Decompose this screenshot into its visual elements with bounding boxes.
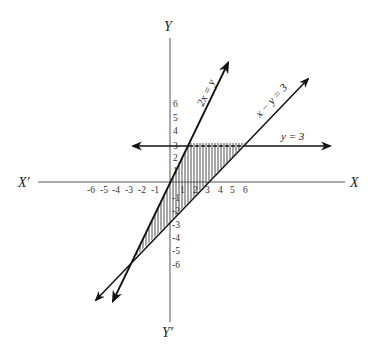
y-tick-label: 4 xyxy=(173,126,178,136)
x-tick-label: -2 xyxy=(138,185,146,195)
y-tick-label: 2 xyxy=(173,153,178,163)
linear-inequalities-graph: Y Y′ X X′ 1 2 3 4 5 6 -1 -2 -3 -4 -5 -6 … xyxy=(0,0,379,349)
y-neg-axis-label: Y′ xyxy=(162,325,174,340)
y-tick-labels-positive: 1 2 3 4 5 6 xyxy=(173,99,178,176)
x-tick-label: -1 xyxy=(151,185,159,195)
y-tick-label: -6 xyxy=(172,260,180,270)
y-tick-label: -4 xyxy=(172,233,180,243)
y-tick-label: 6 xyxy=(173,99,178,109)
x-tick-label: -5 xyxy=(100,185,108,195)
x-tick-label: -4 xyxy=(112,185,120,195)
x-tick-label: 4 xyxy=(218,185,223,195)
x-tick-label: 1 xyxy=(180,185,185,195)
shaded-region xyxy=(134,130,245,270)
x-tick-label: -3 xyxy=(125,185,133,195)
x-tick-label: 5 xyxy=(230,185,235,195)
y-tick-label: -3 xyxy=(172,220,180,230)
y-tick-label: 5 xyxy=(173,113,178,123)
y-tick-label: -1 xyxy=(172,193,180,203)
label-x-minus-y-equals-3: x − y = 3 xyxy=(252,81,290,120)
x-tick-labels-negative: -1 -2 -3 -4 -5 -6 xyxy=(87,185,159,195)
x-tick-labels-positive: 1 2 3 4 5 6 xyxy=(180,185,248,195)
y-axis-label: Y xyxy=(164,19,174,34)
label-y-equals-3: y = 3 xyxy=(280,130,305,142)
x-tick-label: 6 xyxy=(243,185,248,195)
y-tick-label: -5 xyxy=(172,246,180,256)
x-axis-label: X xyxy=(349,175,359,190)
x-neg-axis-label: X′ xyxy=(17,175,31,190)
x-tick-label: -6 xyxy=(87,185,95,195)
